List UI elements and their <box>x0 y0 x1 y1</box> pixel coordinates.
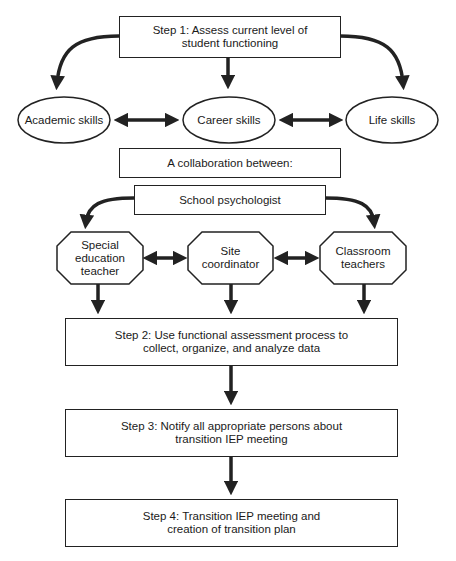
step2-box: Step 2: Use functional assessment proces… <box>65 318 398 366</box>
step1-box: Step 1: Assess current level of student … <box>119 16 341 58</box>
site-coordinator-label: Site coordinator <box>188 232 273 284</box>
special-ed-teacher-label: Special education teacher <box>57 232 143 284</box>
step3-box: Step 3: Notify all appropriate persons a… <box>65 409 398 457</box>
step1-line2: student functioning <box>182 37 279 50</box>
arrow-psych-to-special-ed <box>86 198 134 222</box>
career-skills-label: Career skills <box>183 112 275 128</box>
arrow-psych-to-classroom <box>325 198 374 222</box>
arrow-step1-to-academic <box>57 36 119 83</box>
collaboration-box: A collaboration between: <box>119 148 341 178</box>
academic-skills-label: Academic skills <box>18 112 110 128</box>
step4-box: Step 4: Transition IEP meeting and creat… <box>65 499 398 547</box>
step1-line1: Step 1: Assess current level of <box>153 24 308 37</box>
school-psychologist-box: School psychologist <box>134 185 326 215</box>
arrow-step1-to-life <box>340 36 403 83</box>
classroom-teachers-label: Classroom teachers <box>320 232 406 284</box>
life-skills-label: Life skills <box>346 112 438 128</box>
